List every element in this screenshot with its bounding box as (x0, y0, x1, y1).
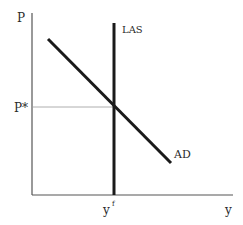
y-full-superscript: f (112, 200, 116, 208)
ad-label: AD (173, 148, 191, 161)
las-label: LAS (122, 24, 143, 35)
ad-curve (48, 39, 171, 163)
las-ad-chart: P LAS P* AD y f y (0, 0, 243, 225)
y-axis-label: P (17, 11, 25, 25)
x-axis-label: y (224, 203, 232, 217)
y-full-label: y (102, 203, 110, 217)
p-star-label: P* (14, 101, 28, 115)
